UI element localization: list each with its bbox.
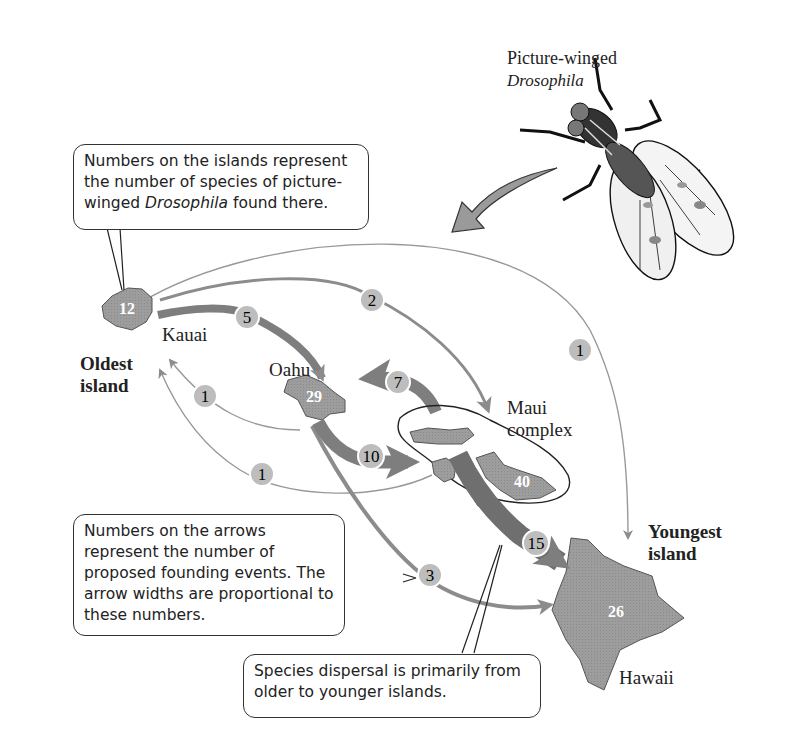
badge-3: 3 — [418, 563, 442, 587]
svg-text:12: 12 — [119, 300, 135, 317]
label-hawaii: Hawaii — [619, 667, 674, 689]
svg-text:15: 15 — [528, 534, 545, 553]
drosophila-fly-icon — [520, 58, 751, 288]
label-oahu: Oahu — [269, 359, 310, 381]
label-oldest-line2: island — [80, 375, 133, 397]
svg-text:1: 1 — [201, 387, 210, 406]
drosophila-dispersal-diagram: 5 2 1 1 1 7 10 3 15 12 29 40 26 — [0, 0, 785, 754]
svg-text:1: 1 — [258, 465, 267, 484]
svg-text:2: 2 — [368, 291, 377, 310]
svg-text:Drosophila: Drosophila — [506, 71, 584, 90]
label-youngest-line1: Youngest — [648, 521, 722, 543]
badge-10: 10 — [358, 443, 384, 469]
badge-15: 15 — [523, 530, 549, 556]
svg-text:Picture-winged: Picture-winged — [507, 48, 617, 68]
badge-2: 2 — [360, 288, 384, 312]
badge-1-oahu-kauai: 1 — [193, 384, 217, 408]
label-oldest-island: Oldest island — [80, 353, 133, 397]
svg-text:7: 7 — [394, 373, 403, 392]
badge-1-maui-kauai: 1 — [250, 462, 274, 486]
svg-text:40: 40 — [514, 473, 530, 490]
svg-text:1: 1 — [576, 341, 585, 360]
svg-text:26: 26 — [608, 603, 624, 620]
svg-text:29: 29 — [306, 388, 322, 405]
fly-pointer-arrow-icon — [452, 168, 557, 232]
svg-text:3: 3 — [426, 566, 435, 585]
label-maui-complex: Maui complex — [507, 397, 572, 441]
svg-text:10: 10 — [363, 447, 380, 466]
label-kauai: Kauai — [162, 324, 207, 346]
label-youngest-island: Youngest island — [648, 521, 722, 565]
dispersal-note-callout: Species dispersal is primarily from olde… — [243, 654, 541, 718]
label-maui-line2: complex — [507, 419, 572, 441]
island-molokai — [410, 428, 474, 444]
label-maui-line1: Maui — [507, 397, 572, 419]
arrows-note-callout: Numbers on the arrows represent the numb… — [73, 514, 345, 636]
label-oldest-line1: Oldest — [80, 353, 133, 375]
badge-7: 7 — [386, 370, 410, 394]
islands-note-text-end: found there. — [228, 194, 328, 212]
label-youngest-line2: island — [648, 543, 722, 565]
islands-note-italic: Drosophila — [145, 194, 228, 212]
badge-5: 5 — [235, 305, 259, 329]
islands-note-callout: Numbers on the islands represent the num… — [73, 144, 369, 230]
badge-1-kauai-hawaii: 1 — [568, 338, 592, 362]
svg-text:5: 5 — [243, 308, 252, 327]
